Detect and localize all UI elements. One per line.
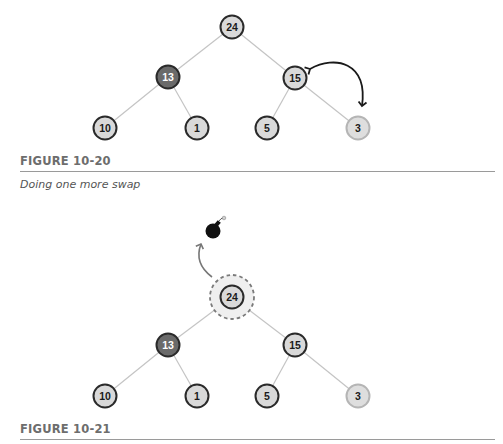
bomb-icon: [206, 216, 226, 238]
svg-text:5: 5: [264, 390, 270, 402]
svg-text:15: 15: [289, 72, 301, 84]
tree-node-24: 24: [221, 16, 244, 39]
svg-text:3: 3: [355, 390, 361, 402]
tree-node-3: 3: [347, 117, 370, 140]
tree-edges: [105, 27, 358, 128]
svg-text:13: 13: [162, 71, 174, 83]
tree-figure-10-21: 24 13 15 10 1 5 3: [94, 216, 370, 407]
tree-node-10: 10: [94, 385, 117, 408]
svg-text:24: 24: [226, 21, 238, 33]
figure-rule-10-21: [20, 439, 495, 440]
svg-text:10: 10: [99, 390, 111, 402]
figure-caption-10-20: Doing one more swap: [20, 178, 140, 191]
tree-node-13: 13: [157, 334, 180, 357]
remove-arrow-icon: [199, 244, 212, 277]
svg-text:3: 3: [355, 122, 361, 134]
tree-node-1: 1: [186, 385, 209, 408]
svg-text:10: 10: [99, 122, 111, 134]
tree-node-3: 3: [347, 385, 370, 408]
tree-node-15: 15: [284, 67, 307, 90]
svg-text:15: 15: [289, 339, 301, 351]
tree-node-5: 5: [256, 385, 279, 408]
figure-rule-10-20: [20, 171, 495, 172]
tree-figure-10-20: 24 13 15 10 1 5 3: [94, 16, 370, 140]
svg-text:5: 5: [264, 122, 270, 134]
tree-node-13: 13: [157, 66, 180, 89]
figure-label-10-20: FIGURE 10-20: [20, 154, 111, 168]
figure-label-10-21: FIGURE 10-21: [20, 422, 111, 436]
svg-text:24: 24: [226, 291, 238, 303]
svg-text:1: 1: [194, 122, 200, 134]
tree-node-15: 15: [284, 334, 307, 357]
svg-text:13: 13: [162, 339, 174, 351]
swap-arrow-icon: [310, 63, 363, 106]
tree-node-1: 1: [186, 117, 209, 140]
tree-node-10: 10: [94, 117, 117, 140]
heap-diagrams: 24 13 15 10 1 5 3: [0, 0, 503, 444]
tree-node-5: 5: [256, 117, 279, 140]
tree-node-24-highlighted: 24: [210, 275, 254, 319]
svg-text:1: 1: [194, 390, 200, 402]
